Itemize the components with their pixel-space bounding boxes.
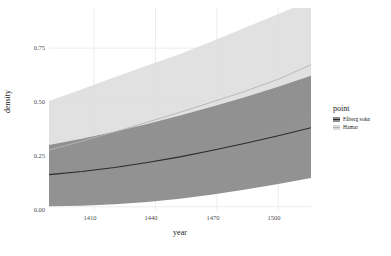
x-tick-label-2: 1470 bbox=[193, 214, 233, 222]
legend-label: Hamar bbox=[343, 124, 358, 131]
legend-swatch-hamar bbox=[333, 124, 340, 131]
x-tick-label-0: 1410 bbox=[70, 214, 110, 222]
legend: point Fåberg sokn Hamar bbox=[333, 104, 391, 132]
confidence-bands bbox=[49, 8, 311, 206]
chart-root: density 0.75 0.50 0.25 0.00 1410 1440 14… bbox=[0, 0, 391, 256]
x-tick-label-3: 1500 bbox=[254, 214, 294, 222]
y-tick-label: 0.00 bbox=[19, 206, 45, 214]
plot-svg bbox=[49, 8, 311, 211]
y-tick-1: 0.25 bbox=[12, 152, 45, 160]
legend-swatch-faberg-sokn bbox=[333, 116, 340, 123]
y-tick-label: 0.75 bbox=[19, 44, 45, 52]
plot-panel bbox=[49, 8, 311, 211]
y-tick-label: 0.50 bbox=[19, 98, 45, 106]
y-tick-0: 0.00 bbox=[12, 206, 45, 214]
x-axis-title: year bbox=[49, 228, 311, 237]
x-tick-label-1: 1440 bbox=[131, 214, 171, 222]
legend-item-hamar[interactable]: Hamar bbox=[333, 124, 391, 131]
legend-title: point bbox=[333, 104, 391, 113]
y-tick-label: 0.25 bbox=[19, 152, 45, 160]
legend-label: Fåberg sokn bbox=[343, 116, 370, 123]
legend-item-faberg-sokn[interactable]: Fåberg sokn bbox=[333, 116, 391, 123]
y-tick-2: 0.50 bbox=[12, 98, 45, 106]
y-tick-3: 0.75 bbox=[12, 44, 45, 52]
